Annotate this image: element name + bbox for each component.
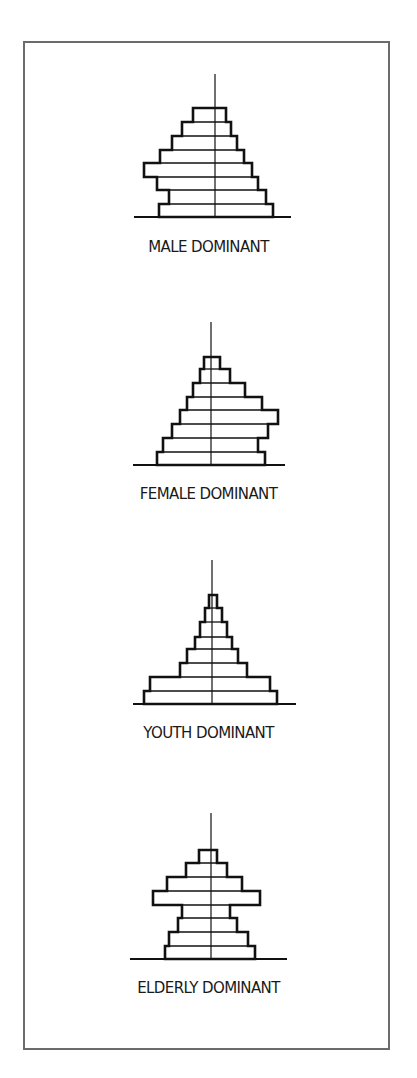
- youth-dominant-label: YOUTH DOMINANT: [0, 724, 417, 742]
- female-dominant-pyramid: [133, 322, 285, 465]
- elderly-dominant-label: ELDERLY DOMINANT: [0, 979, 417, 997]
- female-dominant-label: FEMALE DOMINANT: [0, 485, 417, 503]
- youth-dominant-pyramid: [133, 560, 296, 704]
- pyramid-outline: [157, 357, 278, 465]
- population-pyramids-diagram: [0, 0, 417, 1078]
- elderly-dominant-pyramid: [130, 813, 287, 959]
- male-dominant-pyramid: [134, 74, 291, 217]
- male-dominant-label: MALE DOMINANT: [0, 238, 417, 256]
